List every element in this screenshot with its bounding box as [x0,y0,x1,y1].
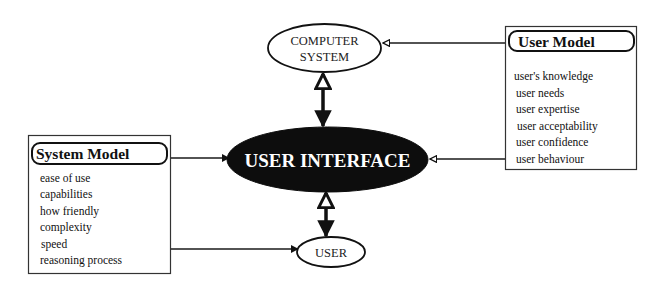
user-interface-node: USER INTERFACE [227,127,428,192]
system-model-item: speed [41,238,67,251]
user-model-item: user confidence [516,136,588,148]
user-model-item: user's knowledge [514,70,593,83]
user-model-item: user needs [516,87,565,99]
computer-system-node: COMPUTER SYSTEM [268,24,381,72]
user-model-item: user acceptability [517,120,598,133]
system-model-title: System Model [36,145,130,162]
system-model-item: complexity [40,221,92,234]
user-model-title: User Model [518,33,595,50]
system-model-box: System Model ease of use capabilities ho… [29,136,171,274]
user-model-item: user behaviour [516,153,584,165]
user-node: USER [297,237,365,267]
system-model-item: how friendly [40,205,99,218]
computer-system-label-line1: COMPUTER [290,34,359,48]
user-model-box: User Model user's knowledge user needs u… [506,27,637,170]
computer-system-label-line2: SYSTEM [300,50,349,64]
user-interface-label: USER INTERFACE [245,150,411,171]
system-model-item: ease of use [40,172,90,184]
user-label: USER [315,246,348,260]
user-model-item: user expertise [516,103,580,116]
system-model-item: capabilities [40,188,93,201]
system-model-item: reasoning process [40,254,123,267]
user-interface-diagram: COMPUTER SYSTEM USER INTERFACE USER User… [0,0,664,287]
